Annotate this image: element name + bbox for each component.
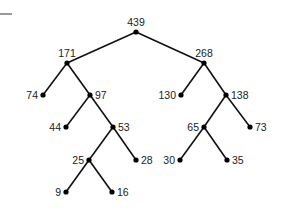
tree-edge [181, 63, 204, 95]
tree-node-dot [64, 60, 69, 65]
tree-node-label: 35 [232, 154, 244, 166]
tree-node-dot [223, 92, 228, 97]
tree-node-dot [86, 157, 91, 162]
tree-node-dot [133, 29, 138, 34]
tree-node-dot [133, 157, 138, 162]
tree-node-label: 30 [163, 154, 175, 166]
tree-node-dot [87, 92, 92, 97]
tree-node-dot [201, 124, 206, 129]
tree-node-dot [40, 92, 45, 97]
tree-edge [67, 63, 90, 95]
tree-node-label: 268 [195, 47, 213, 59]
tree-edge [204, 95, 226, 127]
tree-node-label: 28 [141, 154, 153, 166]
tree-edge [66, 95, 90, 127]
tree-node-label: 74 [26, 89, 38, 101]
tree-node-label: 16 [117, 186, 129, 198]
tree-node-label: 171 [58, 47, 76, 59]
tree-node-label: 9 [55, 186, 61, 198]
tree-edge [89, 127, 113, 160]
tree-node-label: 44 [49, 121, 61, 133]
tree-node-label: 73 [255, 121, 267, 133]
tree-node-dot [109, 189, 114, 194]
huffman-tree-diagram: 43917126874971301384453657325283035916 [0, 0, 285, 214]
tree-node-label: 439 [127, 16, 145, 28]
tree-edge [43, 63, 67, 95]
tree-node-dot [178, 92, 183, 97]
tree-node-label: 130 [158, 89, 176, 101]
tree-node-label: 25 [72, 154, 84, 166]
tree-edge [204, 63, 226, 95]
tree-node-dot [63, 189, 68, 194]
tree-edge [89, 160, 112, 192]
tree-node-dot [247, 124, 252, 129]
tree-edge [136, 32, 204, 63]
tree-node-label: 65 [187, 121, 199, 133]
tree-node-dot [224, 157, 229, 162]
tree-node-dot [201, 60, 206, 65]
tree-node-dot [110, 124, 115, 129]
tree-edge [204, 127, 227, 160]
tree-node-label: 53 [118, 121, 130, 133]
tree-node-label: 97 [95, 89, 107, 101]
tree-node-dot [63, 124, 68, 129]
tree-node-label: 138 [231, 89, 249, 101]
tree-edge [67, 32, 136, 63]
tree-nodes: 43917126874971301384453657325283035916 [26, 16, 267, 198]
tree-node-dot [177, 157, 182, 162]
